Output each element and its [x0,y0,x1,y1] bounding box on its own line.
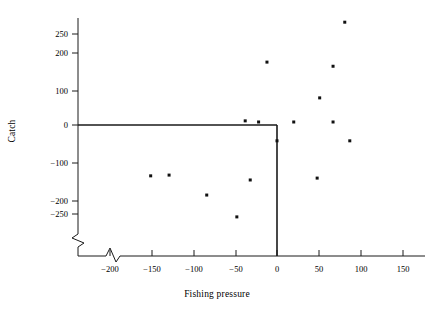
data-point [149,174,152,177]
x-tick-label-100: 100 [337,264,385,274]
data-point [292,120,295,123]
data-point [316,177,319,180]
scatter-plot-figure: 250 200 100 0 −100 −200 −250 −200 −150 −… [0,0,434,312]
y-tick-label-neg250: −250 [30,209,68,219]
axis-corner-connector [78,252,100,256]
y-tick-label-100: 100 [34,86,68,96]
data-point-group [149,21,351,219]
y-axis-ticks [72,34,78,214]
x-axis-title: Fishing pressure [0,289,434,299]
data-point [168,174,171,177]
y-tick-label-neg100: −100 [30,158,68,168]
x-tick-label-0: 0 [253,264,301,274]
data-point [205,194,208,197]
data-point [249,178,252,181]
x-tick-label-neg150: −150 [128,264,176,274]
data-point [318,96,321,99]
data-point [235,215,238,218]
y-axis-break-icon [72,228,84,252]
data-point [276,139,279,142]
data-point [244,119,247,122]
y-tick-label-200: 200 [34,48,68,58]
y-tick-label-0: 0 [34,120,68,130]
data-point [257,120,260,123]
y-tick-label-neg200: −200 [30,196,68,206]
data-point [348,139,351,142]
x-tick-label-50: 50 [295,264,343,274]
data-point [265,61,268,64]
x-tick-label-neg100: −100 [170,264,218,274]
x-axis-break-icon [100,248,126,262]
x-tick-label-neg200: −200 [86,264,134,274]
y-axis-title: Catch [7,101,17,161]
x-tick-label-150: 150 [379,264,427,274]
data-point [332,120,335,123]
data-point [332,65,335,68]
y-tick-label-250: 250 [34,29,68,39]
data-point [343,21,346,24]
x-axis-ticks [110,250,403,256]
